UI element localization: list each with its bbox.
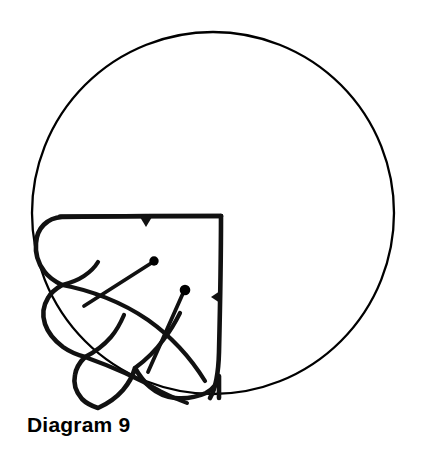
fan-top-edge <box>60 216 221 217</box>
diagram-figure: Diagram 9 <box>0 0 425 452</box>
figure-caption: Diagram 9 <box>27 412 130 438</box>
vein-dot-lower <box>180 285 191 296</box>
outer-circle <box>32 32 394 394</box>
fan-right-edge <box>210 216 221 398</box>
scalloped-arc <box>36 216 221 408</box>
vein-line-lower <box>148 291 184 372</box>
notch-nub-top-icon <box>140 217 152 227</box>
lobe-crease-1 <box>62 262 98 285</box>
notch-nub-right-icon <box>211 291 220 303</box>
fan-inner-curve-lower <box>85 357 187 403</box>
diagram-canvas <box>0 0 425 452</box>
lobe-crease-2 <box>85 315 124 357</box>
vein-dot-upper <box>149 256 158 265</box>
